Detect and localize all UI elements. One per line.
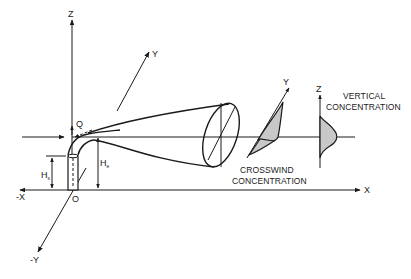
- stack-height-label: Hs: [41, 170, 51, 181]
- crosswind-caption-2: CONCENTRATION: [232, 176, 307, 186]
- neg-y-axis: [38, 168, 86, 252]
- x-axis-label: X: [364, 185, 370, 195]
- plume-rise-inner: [78, 140, 94, 155]
- neg-y-axis-label: -Y: [30, 255, 39, 265]
- crosswind-axis-label: Y: [283, 77, 289, 87]
- y-axis: [117, 52, 149, 111]
- vertical-caption-2: CONCENTRATION: [326, 102, 401, 112]
- plume-lower-edge: [94, 140, 214, 167]
- vertical-axis-label: Z: [316, 84, 322, 94]
- crosswind-y-axis: [247, 88, 289, 158]
- z-axis-label: Z: [68, 9, 74, 19]
- vertical-profile: [320, 116, 337, 158]
- stack-top: [68, 154, 78, 158]
- vertical-caption-1: VERTICAL: [343, 91, 385, 101]
- crosswind-profile-lower: [249, 139, 274, 155]
- y-axis-label: Y: [152, 49, 158, 59]
- emission-rate-label: Q: [76, 119, 83, 129]
- neg-x-axis-label: -X: [16, 192, 25, 202]
- origin-label: O: [72, 194, 79, 204]
- effective-height-label: He: [100, 158, 110, 169]
- plume-rise-outer: [68, 130, 120, 155]
- crosswind-caption-1: CROSSWIND: [240, 165, 294, 175]
- plume-diagram: -X X Z -Y Y O Q Hs He Y CROSSWIND CONCEN…: [0, 0, 411, 279]
- crosswind-profile: [258, 102, 283, 142]
- plume-upper-edge: [88, 104, 229, 133]
